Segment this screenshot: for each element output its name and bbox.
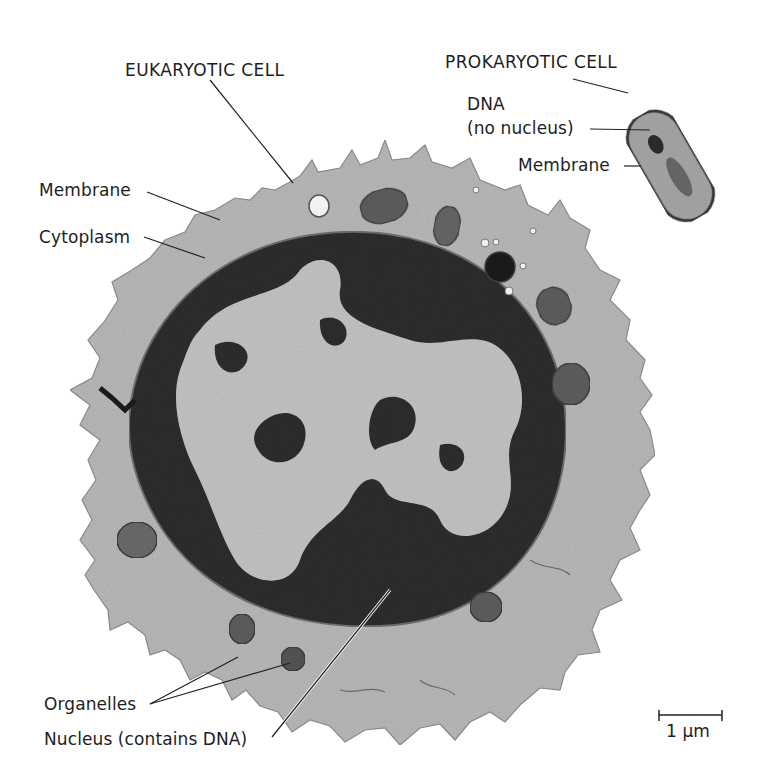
vesicle [309, 195, 329, 217]
label-membrane-left: Membrane [39, 180, 131, 200]
mitochondrion [117, 522, 157, 558]
label-no-nucleus: (no nucleus) [467, 118, 574, 138]
cell-comparison-figure: EUKARYOTIC CELL Membrane Cytoplasm PROKA… [0, 0, 760, 777]
vesicle [520, 263, 526, 269]
label-nucleus: Nucleus (contains DNA) [44, 729, 247, 749]
mitochondrion [470, 592, 502, 622]
dense-granule [485, 252, 515, 282]
mitochondrion [229, 614, 255, 644]
label-cytoplasm: Cytoplasm [39, 227, 130, 247]
leader-eukaryotic-cell [210, 80, 293, 183]
eukaryotic-cell [70, 140, 655, 745]
scale-bar [659, 710, 722, 721]
vesicle [493, 239, 499, 245]
label-prokaryotic-cell: PROKARYOTIC CELL [445, 52, 617, 72]
mitochondrion [281, 647, 305, 671]
leader-membrane-left [147, 192, 220, 220]
vesicle [505, 287, 513, 295]
label-dna: DNA [467, 94, 505, 114]
mitochondrion [552, 363, 590, 405]
label-membrane-right: Membrane [518, 155, 610, 175]
micrograph-illustration [0, 0, 760, 777]
vesicle [481, 239, 489, 247]
label-eukaryotic-cell: EUKARYOTIC CELL [125, 60, 284, 80]
vesicle [473, 187, 479, 193]
nucleus [129, 232, 566, 627]
vesicle [530, 228, 536, 234]
label-organelles: Organelles [44, 694, 136, 714]
scale-bar-label: 1 µm [666, 721, 710, 741]
leader-prokaryotic-cell [573, 79, 628, 93]
